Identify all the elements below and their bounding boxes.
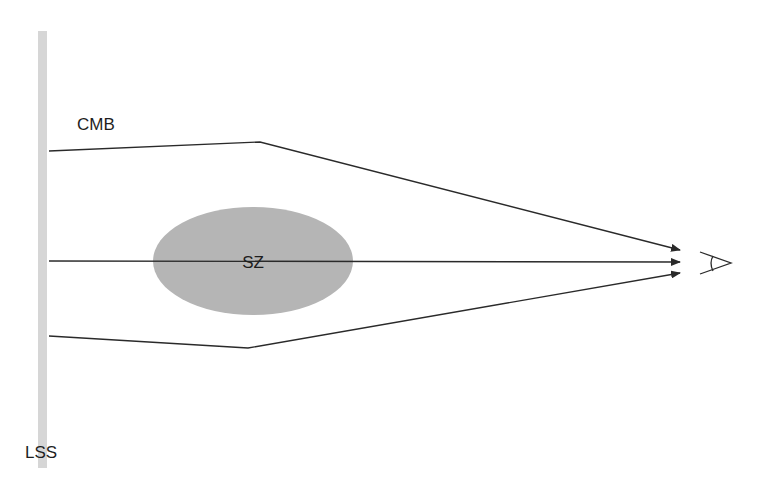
eye-icon (700, 252, 731, 274)
lss-bar (38, 31, 47, 468)
lss-label: LSS (25, 443, 57, 462)
cmb-label: CMB (77, 115, 115, 134)
cmb-lensing-diagram: CMB SZ LSS (0, 0, 757, 489)
upper-ray (49, 142, 680, 250)
lower-ray (49, 273, 680, 348)
central-ray (49, 261, 680, 262)
sz-label: SZ (242, 253, 264, 272)
